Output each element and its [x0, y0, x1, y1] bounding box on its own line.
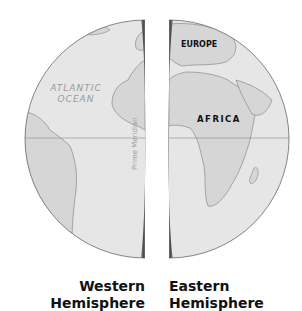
eastern-hemisphere-caption: Eastern Hemisphere [169, 278, 264, 311]
western-hemisphere-caption: Western Hemisphere [50, 278, 145, 311]
europe-label: EUROPE [181, 41, 217, 49]
eastern-hemisphere [169, 20, 302, 258]
western-hemisphere [0, 20, 145, 260]
africa-label: AFRICA [197, 115, 241, 124]
hemispheres-diagram: Prime Meridian [0, 0, 302, 270]
atlantic-ocean-label: ATLANTIC OCEAN [48, 84, 104, 104]
prime-meridian-label: Prime Meridian [131, 117, 139, 170]
